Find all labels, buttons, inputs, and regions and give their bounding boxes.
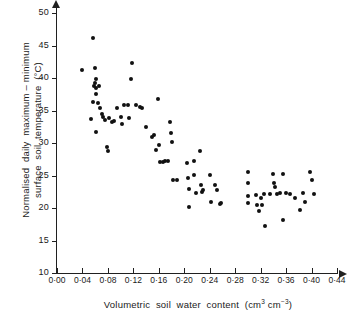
x-tick-label: 0·04	[74, 275, 91, 285]
data-point	[268, 192, 272, 196]
y-tick-mark	[52, 208, 56, 209]
data-point	[115, 106, 119, 110]
data-point	[152, 133, 156, 137]
data-point	[91, 100, 95, 104]
data-point	[157, 143, 161, 147]
data-point	[154, 148, 158, 152]
scatter-plot-figure: 101520253035404550 0·000·040·080·120·160…	[0, 0, 352, 318]
data-point	[308, 170, 312, 174]
data-point	[199, 183, 203, 187]
data-point	[246, 170, 250, 174]
data-point	[94, 77, 98, 81]
data-point	[208, 173, 212, 177]
data-point	[97, 84, 101, 88]
y-tick-mark	[52, 273, 56, 274]
data-point	[185, 161, 189, 165]
plot-data-area	[57, 13, 337, 273]
x-tick-label: 0·16	[150, 275, 167, 285]
x-tick-label: 0·32	[252, 275, 269, 285]
data-point	[89, 117, 93, 121]
x-tick-mark	[337, 268, 338, 273]
data-point	[278, 191, 282, 195]
data-point	[271, 172, 275, 176]
data-point	[281, 218, 285, 222]
y-axis-arrow-icon	[52, 0, 60, 8]
data-point	[312, 192, 316, 196]
x-tick-label: 0·20	[176, 275, 193, 285]
x-axis-title-text: Volumetric soil water content (cm3 cm−3)	[104, 299, 292, 310]
data-point	[186, 176, 190, 180]
data-point	[246, 201, 250, 205]
data-point	[201, 188, 205, 192]
y-tick-mark	[52, 176, 56, 177]
data-point	[213, 183, 217, 187]
y-tick-label: 10	[39, 267, 49, 278]
data-point	[257, 209, 261, 213]
data-point	[194, 191, 198, 195]
data-point	[301, 191, 305, 195]
y-tick-mark	[52, 111, 56, 112]
data-point	[120, 122, 124, 126]
data-point	[272, 181, 276, 185]
y-tick-mark	[52, 13, 56, 14]
data-point	[187, 187, 191, 191]
data-point	[192, 159, 196, 163]
data-point	[288, 192, 292, 196]
data-point	[246, 181, 250, 185]
data-point	[246, 194, 250, 198]
data-point	[259, 196, 263, 200]
y-tick-mark	[52, 143, 56, 144]
data-point	[127, 116, 131, 120]
x-tick-label: 0·36	[278, 275, 295, 285]
y-axis-title-text: Normalised daily maximum – minimumsurfac…	[20, 42, 43, 218]
data-point	[293, 196, 297, 200]
data-point	[93, 66, 97, 70]
x-tick-label: 0·12	[125, 275, 142, 285]
data-point	[260, 203, 264, 207]
y-axis-title: Normalised daily maximum – minimumsurfac…	[20, 6, 44, 254]
data-point	[215, 188, 219, 192]
data-point	[107, 116, 111, 120]
x-tick-label: 0·08	[99, 275, 116, 285]
data-point	[255, 203, 259, 207]
data-point	[96, 101, 100, 105]
x-tick-label: 0·40	[303, 275, 320, 285]
data-point	[106, 149, 110, 153]
x-tick-label: 0·00	[48, 275, 65, 285]
data-point	[140, 106, 144, 110]
data-point	[129, 77, 133, 81]
data-point	[254, 193, 258, 197]
data-point	[169, 131, 173, 135]
data-point	[94, 92, 98, 96]
data-point	[94, 130, 98, 134]
data-point	[303, 200, 307, 204]
data-point	[219, 201, 223, 205]
data-point	[310, 178, 314, 182]
data-point	[187, 205, 191, 209]
data-point	[105, 145, 109, 149]
y-tick: 10	[0, 273, 56, 274]
data-point	[126, 103, 130, 107]
data-point	[168, 120, 172, 124]
data-point	[156, 97, 160, 101]
data-point	[80, 68, 84, 72]
data-point	[192, 173, 196, 177]
data-point	[112, 119, 116, 123]
x-axis-line	[56, 273, 338, 274]
data-point	[175, 178, 179, 182]
x-tick-label: 0·44	[328, 275, 345, 285]
data-point	[273, 185, 277, 189]
data-point	[209, 200, 213, 204]
data-point	[130, 61, 134, 65]
data-point	[263, 224, 267, 228]
y-tick-mark	[52, 78, 56, 79]
data-point	[103, 118, 107, 122]
data-point	[198, 149, 202, 153]
data-point	[98, 106, 102, 110]
data-point	[262, 192, 266, 196]
data-point	[298, 208, 302, 212]
x-tick-label: 0·28	[227, 275, 244, 285]
data-point	[144, 125, 148, 129]
x-tick-label: 0·24	[201, 275, 218, 285]
y-tick-mark	[52, 46, 56, 47]
